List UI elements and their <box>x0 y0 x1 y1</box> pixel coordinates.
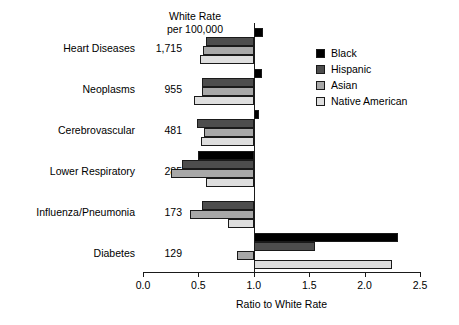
category-label-6: Diabetes <box>10 247 135 259</box>
category-label-1: Heart Diseases <box>10 42 135 54</box>
x-tick-label-2.5: 2.5 <box>400 279 440 291</box>
legend-item-asian: Asian <box>316 77 407 93</box>
bar-cerebrovascular-asian <box>204 128 254 137</box>
x-tick-label-2.0: 2.0 <box>345 279 385 291</box>
legend-label: Black <box>331 47 357 59</box>
legend-item-hispanic: Hispanic <box>316 61 407 77</box>
bar-diabetes-asian <box>237 251 254 260</box>
bar-lower-respiratory-black <box>198 151 253 160</box>
bar-neoplasms-asian <box>202 87 254 96</box>
x-tick-1.0 <box>254 272 255 277</box>
bar-neoplasms-black <box>254 69 262 78</box>
baseline-marker-6 <box>254 228 255 274</box>
baseline-marker-1 <box>254 23 255 69</box>
category-label-4: Lower Respiratory <box>10 165 135 177</box>
legend-item-native-american: Native American <box>316 93 407 109</box>
legend-swatch-icon-hispanic <box>316 65 325 74</box>
x-tick-label-0.0: 0.0 <box>123 279 163 291</box>
baseline-marker-2 <box>254 64 255 110</box>
bar-neoplasms-native-american <box>194 96 254 105</box>
bar-heart-diseases-hispanic <box>206 37 254 46</box>
legend-label: Native American <box>331 95 407 107</box>
bar-diabetes-black <box>254 233 398 242</box>
category-label-3: Cerebrovascular <box>10 124 135 136</box>
x-tick-2.5 <box>420 272 421 277</box>
bar-heart-diseases-native-american <box>200 55 254 64</box>
bar-neoplasms-hispanic <box>202 78 254 87</box>
legend-label: Asian <box>331 79 357 91</box>
x-tick-0.5 <box>198 272 199 277</box>
bar-heart-diseases-black <box>254 28 263 37</box>
category-label-5: Influenza/Pneumonia <box>10 206 135 218</box>
x-tick-label-1.0: 1.0 <box>234 279 274 291</box>
legend-label: Hispanic <box>331 63 371 75</box>
category-label-2: Neoplasms <box>10 83 135 95</box>
x-tick-label-1.5: 1.5 <box>289 279 329 291</box>
baseline-marker-3 <box>254 105 255 151</box>
bar-influenza-pneumonia-native-american <box>228 219 253 228</box>
bar-heart-diseases-asian <box>203 46 254 55</box>
legend-swatch-icon-native-american <box>316 97 325 106</box>
bar-cerebrovascular-hispanic <box>197 119 254 128</box>
chart-figure: White Rate per 100,000 Heart Diseases1,7… <box>0 0 459 325</box>
bar-lower-respiratory-asian <box>171 169 254 178</box>
chart-legend: BlackHispanicAsianNative American <box>316 45 407 109</box>
bar-diabetes-native-american <box>254 260 393 269</box>
x-tick-label-0.5: 0.5 <box>178 279 218 291</box>
baseline-marker-4 <box>254 146 255 192</box>
legend-swatch-icon-black <box>316 49 325 58</box>
legend-swatch-icon-asian <box>316 81 325 90</box>
bar-diabetes-hispanic <box>254 242 315 251</box>
x-axis-line <box>143 272 420 273</box>
bar-influenza-pneumonia-asian <box>190 210 254 219</box>
bar-influenza-pneumonia-hispanic <box>202 201 254 210</box>
x-tick-1.5 <box>309 272 310 277</box>
bar-lower-respiratory-hispanic <box>182 160 254 169</box>
bar-lower-respiratory-native-american <box>206 178 254 187</box>
bar-cerebrovascular-native-american <box>201 137 254 146</box>
x-axis-title: Ratio to White Rate <box>143 298 420 310</box>
baseline-marker-5 <box>254 187 255 233</box>
legend-item-black: Black <box>316 45 407 61</box>
x-tick-0.0 <box>143 272 144 277</box>
x-tick-2.0 <box>365 272 366 277</box>
